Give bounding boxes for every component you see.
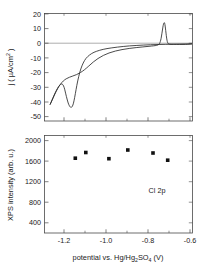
top-panel-yticks	[45, 14, 193, 117]
bottom-ytick-label-3: 800	[29, 198, 41, 207]
bottom-ylabel-text: XPS intensity (arb. u.)	[6, 149, 15, 221]
top-ytick-label-1: 10	[33, 24, 41, 33]
xps-data-point-0	[74, 156, 78, 160]
xtick-label-2: -0.8	[142, 236, 154, 245]
bottom-ytick-label-1: 1600	[25, 157, 41, 166]
xaxis-label-part2: SO	[138, 253, 149, 262]
bottom-ytick-label-4: 400	[29, 218, 41, 227]
top-ytick-label-5: -30	[31, 83, 41, 92]
bottom-ytick-label-0: 2000	[25, 136, 41, 145]
top-panel-xticks	[64, 14, 190, 122]
cl-2p-annotation: Cl 2p	[149, 186, 166, 195]
bottom-panel-ylabel: XPS intensity (arb. u.)	[6, 149, 15, 221]
figure-container: 20 10 0 -10 -20 -30 -40 -50	[0, 0, 204, 279]
ylabel-close: )	[6, 49, 15, 54]
top-panel-cv: 20 10 0 -10 -20 -30 -40 -50	[5, 10, 192, 122]
top-ytick-label-4: -20	[31, 68, 41, 77]
xtick-label-0: -1.2	[58, 236, 70, 245]
top-ytick-label-6: -40	[31, 98, 41, 107]
xps-data-point-5	[166, 158, 170, 162]
cv-cathodic-sweep	[50, 44, 191, 107]
bottom-panel-frame	[45, 136, 193, 234]
xtick-label-1: -1.0	[100, 236, 112, 245]
top-ytick-label-7: -50	[31, 112, 41, 121]
bottom-panel-xps: 2000 1600 1200 800 400 -1.2 -1.0 -0.	[6, 136, 197, 245]
top-panel-ylabel: j ( µA/cm2 )	[5, 49, 14, 87]
top-ytick-label-2: 0	[37, 39, 41, 48]
xaxis-label-part1: potential vs. Hg/Hg	[73, 253, 135, 262]
bottom-ytick-label-2: 1200	[25, 177, 41, 186]
svg-text:j ( µA/cm2 ): j ( µA/cm2 )	[5, 49, 14, 87]
xps-data-point-4	[151, 151, 155, 155]
xtick-label-3: -0.6	[184, 236, 196, 245]
top-ytick-label-3: -10	[31, 54, 41, 63]
ylabel-j: j (	[6, 77, 15, 86]
xaxis-label-part3: (V)	[152, 253, 164, 262]
xps-data-point-2	[107, 157, 111, 161]
xps-data-point-3	[126, 148, 130, 152]
top-ytick-label-0: 20	[33, 10, 41, 19]
xaxis-label: potential vs. Hg/Hg2SO4 (V)	[73, 253, 164, 263]
xps-data-markers	[74, 148, 170, 162]
xps-data-point-1	[84, 151, 88, 155]
plot-svg: 20 10 0 -10 -20 -30 -40 -50	[0, 0, 204, 279]
ylabel-unit: A/cm	[6, 56, 15, 73]
bottom-panel-yticks	[45, 141, 193, 223]
top-panel-frame	[45, 14, 193, 122]
cv-anodic-sweep	[50, 23, 191, 105]
